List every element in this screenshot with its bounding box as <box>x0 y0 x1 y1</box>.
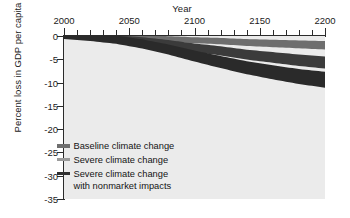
x-tick-minor <box>181 30 182 35</box>
x-tick-major <box>260 28 261 35</box>
legend-label: Baseline climate change <box>74 140 175 153</box>
x-tick-label: 2100 <box>184 15 205 26</box>
y-tick-label: 0 <box>0 31 58 42</box>
x-tick-minor <box>208 30 209 35</box>
y-tick-label: -15 <box>0 100 58 111</box>
y-tick <box>57 106 64 107</box>
x-tick-minor <box>116 30 117 35</box>
x-tick-label: 2050 <box>119 15 140 26</box>
legend-label: Severe climate change <box>74 154 169 167</box>
y-tick-label: -25 <box>0 147 58 158</box>
x-tick-minor <box>312 30 313 35</box>
y-tick-label: -20 <box>0 124 58 135</box>
x-tick-minor <box>142 30 143 35</box>
y-tick-label: -35 <box>0 194 58 205</box>
legend-label-line1: Severe climate change <box>74 169 169 179</box>
x-tick-minor <box>234 30 235 35</box>
x-tick-label: 2150 <box>249 15 270 26</box>
x-tick-minor <box>221 30 222 35</box>
x-tick-label: 2200 <box>314 15 335 26</box>
y-tick <box>57 199 64 200</box>
x-tick-major <box>195 28 196 35</box>
x-tick-major <box>129 28 130 35</box>
legend-swatch-icon <box>57 158 70 161</box>
x-tick-minor <box>273 30 274 35</box>
legend-item: Severe climate change <box>57 154 174 167</box>
legend-swatch-icon <box>57 172 70 175</box>
legend-item: Baseline climate change <box>57 140 174 153</box>
x-tick-major <box>64 28 65 35</box>
x-axis-title-label: Year <box>172 3 192 14</box>
y-tick <box>57 83 64 84</box>
x-tick-minor <box>247 30 248 35</box>
legend-swatch-icon <box>57 144 70 147</box>
x-tick-minor <box>299 30 300 35</box>
legend-label-line1: Baseline climate change <box>74 141 175 151</box>
x-tick-minor <box>90 30 91 35</box>
x-tick-minor <box>286 30 287 35</box>
legend-label: Severe climate change with nonmarket imp… <box>74 168 172 193</box>
x-tick-minor <box>155 30 156 35</box>
x-tick-label: 2000 <box>53 15 74 26</box>
x-tick-minor <box>103 30 104 35</box>
y-tick <box>57 36 64 37</box>
legend-label-line1: Severe climate change <box>74 155 169 165</box>
x-tick-major <box>325 28 326 35</box>
x-tick-minor <box>77 30 78 35</box>
y-tick <box>57 59 64 60</box>
chart-legend: Baseline climate change Severe climate c… <box>57 140 174 194</box>
chart-figure: Year Percent loss in GDP per capita 2000… <box>0 0 350 218</box>
y-tick <box>57 129 64 130</box>
x-tick-minor <box>168 30 169 35</box>
legend-item: Severe climate change with nonmarket imp… <box>57 168 174 193</box>
y-tick-label: -5 <box>0 54 58 65</box>
y-tick-label: -10 <box>0 77 58 88</box>
x-axis-title: Year <box>0 3 350 14</box>
y-tick-label: -30 <box>0 170 58 181</box>
legend-label-line2: with nonmarket impacts <box>74 180 172 193</box>
